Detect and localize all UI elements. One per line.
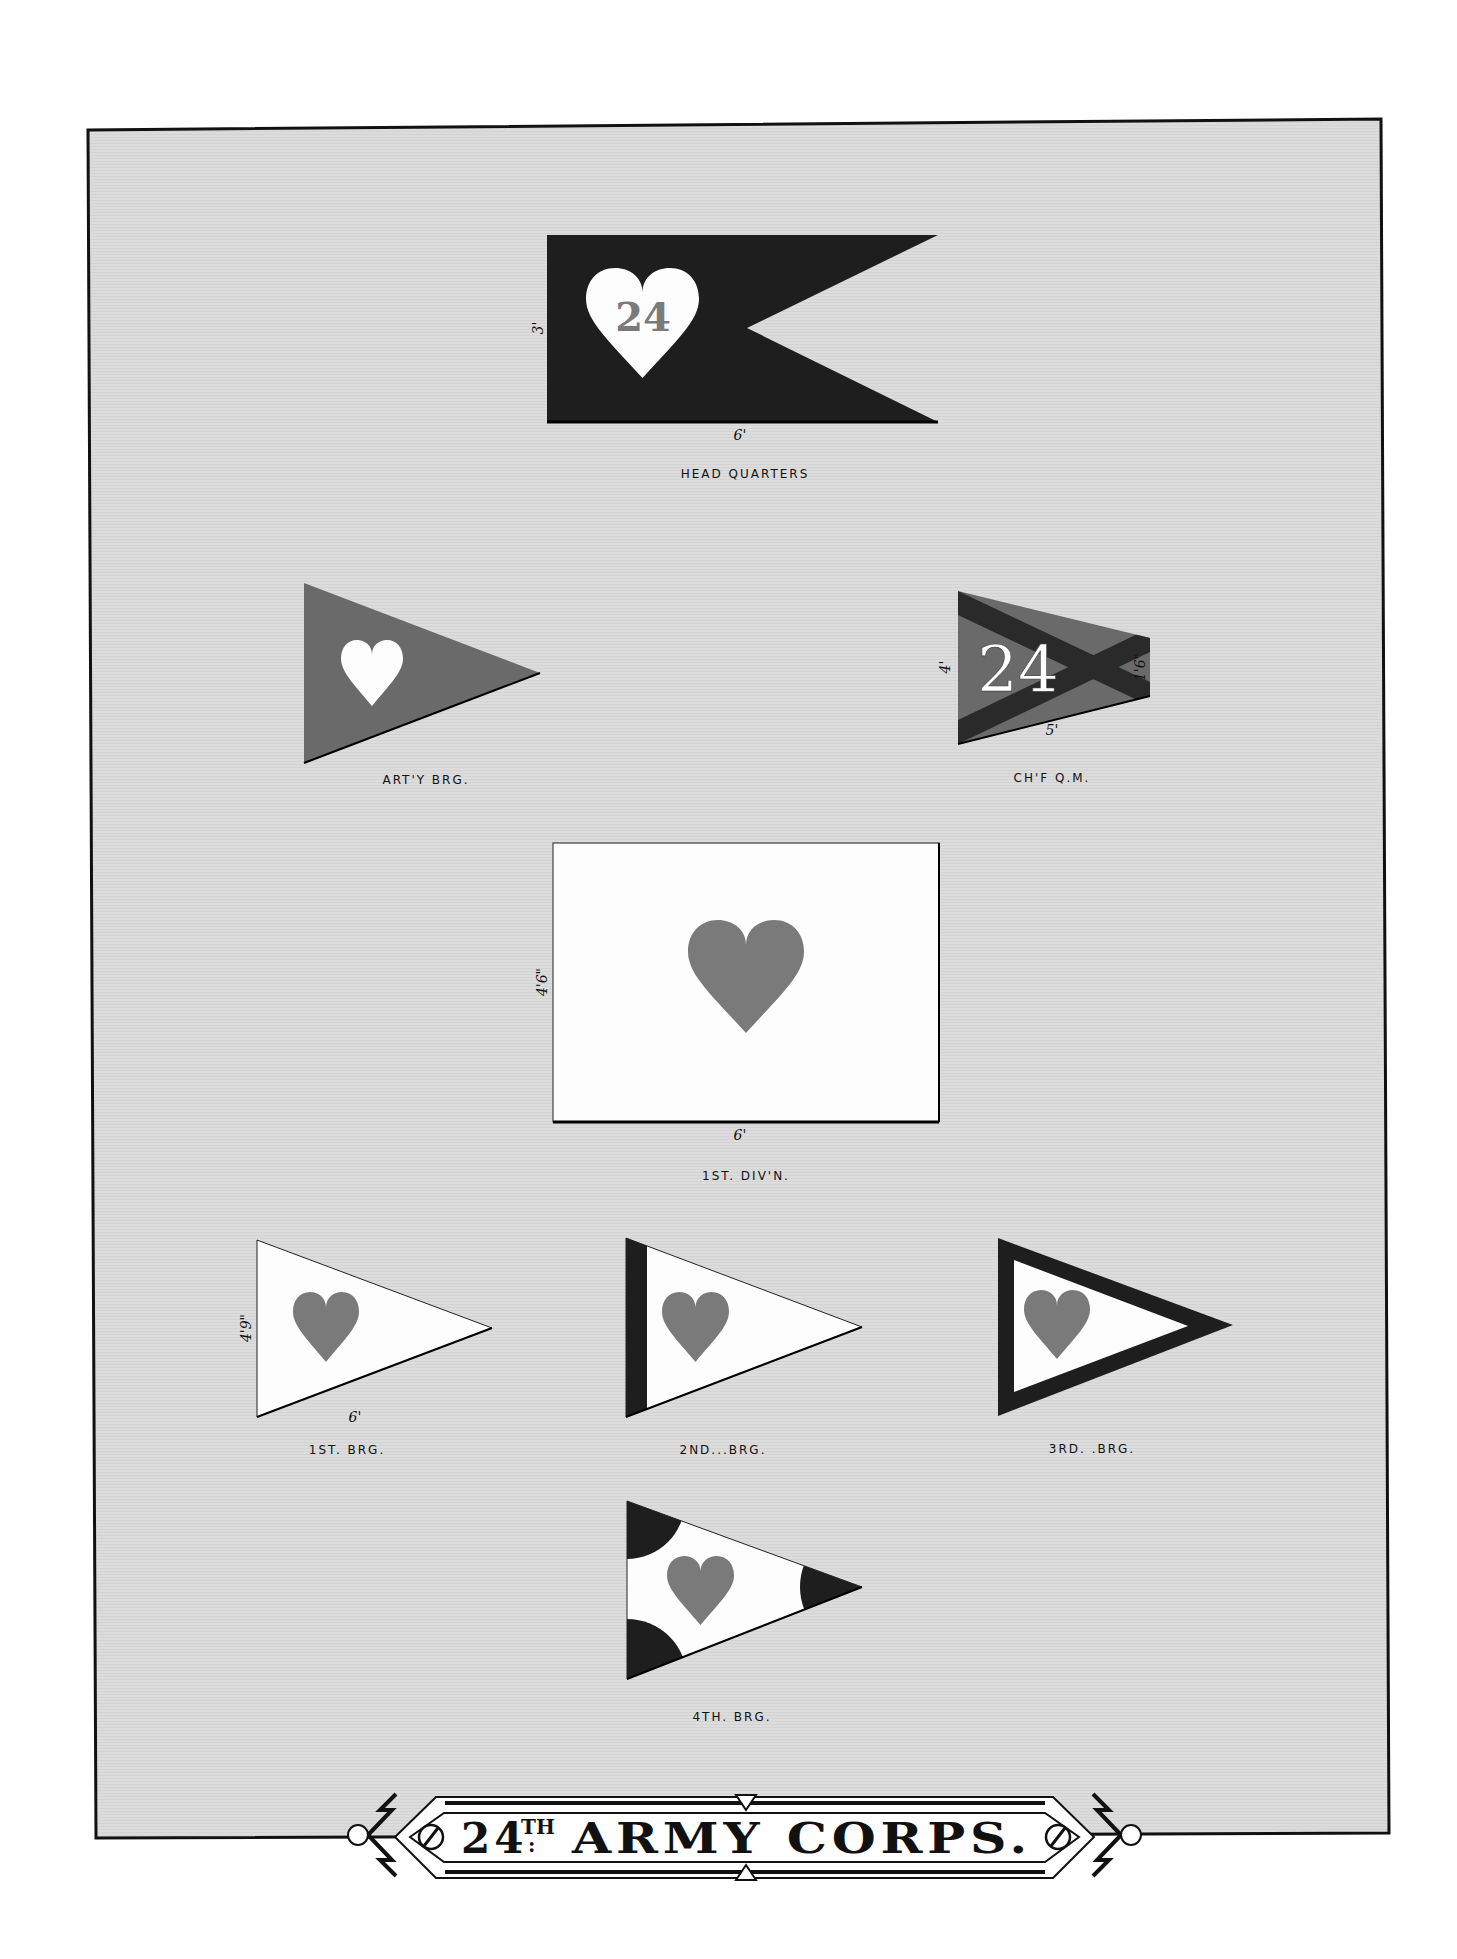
hq-label: HEAD QUARTERS xyxy=(681,467,810,481)
div-label: 1ST. DIV'N. xyxy=(702,1169,790,1183)
title-number: 24 xyxy=(461,1814,527,1863)
qm-numeral: 24 xyxy=(977,633,1058,707)
brg2-label: 2ND...BRG. xyxy=(680,1443,767,1457)
qm-fly-dimension: 5' xyxy=(1046,722,1059,738)
brg1-label: 1ST. BRG. xyxy=(309,1443,385,1457)
div-hoist-dimension: 4'6" xyxy=(534,968,550,997)
brg3-label: 3RD. .BRG. xyxy=(1049,1442,1135,1456)
qm-label: CH'F Q.M. xyxy=(1014,771,1091,785)
title-suffix: TH xyxy=(521,1815,555,1839)
qm-end-dimension: 1'6" xyxy=(1132,653,1148,681)
div-fly-dimension: 6' xyxy=(734,1127,747,1143)
brg1-hoist-dimension: 4'9" xyxy=(238,1314,254,1343)
artillery-label: ART'Y BRG. xyxy=(382,773,469,787)
title-colon: : xyxy=(528,1833,535,1857)
hq-hoist-dimension: 3' xyxy=(530,322,546,335)
hq-fly-dimension: 6' xyxy=(734,427,747,443)
flag-plate: 24 3' 6' HEAD QUARTERS ART'Y BRG. 24 4' … xyxy=(0,0,1457,1959)
ornament-left-icon xyxy=(419,1825,443,1849)
brg1-fly-dimension: 6' xyxy=(349,1409,362,1425)
qm-hoist-dimension: 4' xyxy=(937,661,953,675)
title-text: ARMY CORPS. xyxy=(571,1814,1032,1863)
hoist-stripe xyxy=(626,1238,647,1417)
title-banner: 24 TH : ARMY CORPS. xyxy=(348,1794,1141,1880)
ornament-right-icon xyxy=(1046,1825,1070,1849)
hq-numeral: 24 xyxy=(615,293,671,340)
brg4-label: 4TH. BRG. xyxy=(692,1710,771,1724)
